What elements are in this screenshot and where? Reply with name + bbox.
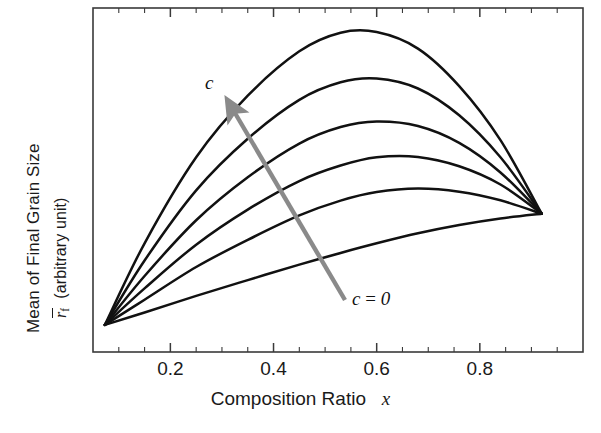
annotation-c-rhs: 0 [381, 288, 391, 309]
x-tick-label: 0.4 [260, 358, 286, 380]
annotation-c-equals-zero: c = 0 [352, 288, 390, 310]
x-axis-tick-labels: 0.20.40.60.8 [0, 358, 601, 384]
x-tick-label: 0.2 [157, 358, 183, 380]
x-axis-label: Composition Ratio x [0, 388, 601, 410]
x-axis-label-text: Composition Ratio [211, 388, 366, 409]
x-tick-label: 0.8 [467, 358, 493, 380]
annotation-eq-sign: = [365, 288, 376, 309]
x-axis-label-symbol: x [382, 388, 390, 409]
annotation-c: c [205, 72, 213, 94]
x-tick-label: 0.6 [363, 358, 389, 380]
figure-root: Mean of Final Grain Size rf (arbitrary u… [0, 0, 601, 433]
